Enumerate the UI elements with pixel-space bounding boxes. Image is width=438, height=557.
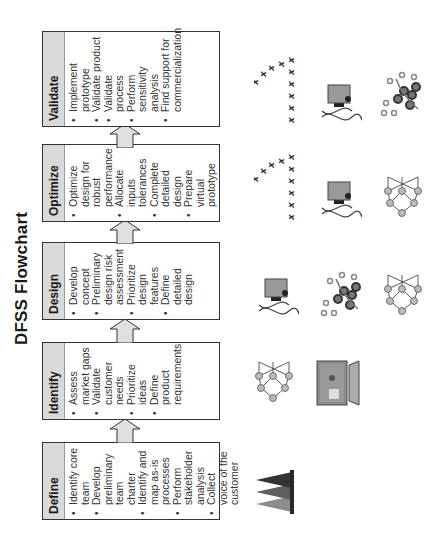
stage-heading: Identify bbox=[43, 343, 65, 419]
molecule-cluster-icon bbox=[378, 71, 424, 119]
stage-item: Validate process bbox=[103, 36, 126, 112]
stage-item: Perform stakeholder analysis bbox=[172, 447, 207, 505]
svg-text:x: x bbox=[286, 165, 296, 173]
stage-item: Optimize design for robust performance bbox=[68, 149, 114, 207]
flow-arrow-icon bbox=[110, 124, 140, 148]
svg-text:x: x bbox=[286, 213, 296, 221]
stage-box-identify: Identify Assess market gaps Validate cus… bbox=[42, 342, 220, 420]
flow-arrow-icon bbox=[110, 319, 140, 343]
svg-text:x: x bbox=[286, 177, 296, 185]
svg-text:x: x bbox=[258, 70, 268, 78]
stage-item: Define detailed design bbox=[160, 247, 195, 305]
stage-box-design: Design Develop concept Preliminary desig… bbox=[42, 242, 220, 320]
stage-item: Develop preliminary team charter bbox=[91, 447, 137, 505]
stage-item: Validate product bbox=[91, 36, 103, 112]
stage-item: Implement prototype bbox=[68, 36, 91, 112]
stage-items: Assess market gaps Validate customer nee… bbox=[68, 343, 183, 419]
stage-item: Validate customer needs bbox=[91, 347, 126, 405]
stage-item: Preliminary design risk assessment bbox=[91, 247, 126, 305]
stage-item: Define product requirements bbox=[149, 347, 184, 405]
network-graph-icon bbox=[382, 173, 424, 217]
stage-item: Prioritize ideas bbox=[126, 347, 149, 405]
svg-text:x: x bbox=[286, 189, 296, 197]
flow-arrow-icon bbox=[110, 419, 140, 443]
svg-text:x: x bbox=[276, 157, 286, 165]
stage-item: Assess market gaps bbox=[68, 347, 91, 405]
stage-item: Identify core team bbox=[68, 447, 91, 505]
svg-text:x: x bbox=[286, 153, 296, 161]
svg-text:x: x bbox=[258, 167, 268, 175]
stage-item: Collect voice of the customer bbox=[206, 447, 241, 505]
stage-items: Identify core team Develop preliminary t… bbox=[68, 443, 241, 519]
stage-items: Optimize design for robust performance A… bbox=[68, 145, 218, 221]
stage-item: Perform sensitivity analysis bbox=[126, 36, 161, 112]
svg-text:x: x bbox=[254, 175, 260, 183]
stage-item: Allocate inputs tolerances bbox=[114, 149, 149, 207]
stage-box-define: Define Identify core team Develop prelim… bbox=[42, 442, 220, 520]
stage-heading: Validate bbox=[43, 32, 65, 126]
svg-text:x: x bbox=[286, 80, 296, 88]
stage-item: Develop concept bbox=[68, 247, 91, 305]
svg-text:x: x bbox=[286, 104, 296, 112]
stage-box-optimize: Optimize Optimize design for robust perf… bbox=[42, 144, 220, 222]
page-title: DFSS Flowchart bbox=[12, 0, 32, 557]
x-marks-pattern-icon: xxx xxx xxxx bbox=[254, 45, 298, 125]
stage-items: Implement prototype Validate product Val… bbox=[68, 32, 183, 126]
flowchart-canvas: DFSS Flowchart Define Identify core team… bbox=[0, 0, 438, 557]
network-graph-icon bbox=[253, 358, 295, 402]
x-marks-pattern-icon: xxx xxx xxxx bbox=[254, 146, 298, 222]
stage-heading: Define bbox=[43, 443, 65, 519]
dna-machine-icon bbox=[318, 176, 362, 222]
computer-monitor-icon bbox=[315, 359, 361, 407]
stage-heading: Design bbox=[43, 243, 65, 319]
stage-items: Develop concept Preliminary design risk … bbox=[68, 243, 195, 319]
svg-text:x: x bbox=[286, 116, 296, 124]
dna-machine-icon bbox=[318, 79, 362, 125]
svg-text:x: x bbox=[276, 60, 286, 68]
stacked-triangles-icon bbox=[252, 470, 294, 514]
stage-item: Identify and map as-is processes bbox=[137, 447, 172, 505]
dna-machine-icon bbox=[255, 273, 299, 319]
stage-heading: Optimize bbox=[43, 145, 65, 221]
svg-text:x: x bbox=[286, 92, 296, 100]
svg-text:x: x bbox=[254, 78, 260, 86]
stage-item: Prepare virtual prototype bbox=[183, 149, 218, 207]
svg-text:x: x bbox=[286, 201, 296, 209]
stage-box-validate: Validate Implement prototype Validate pr… bbox=[42, 31, 220, 127]
svg-text:x: x bbox=[286, 68, 296, 76]
stage-item: Complete detailed design bbox=[149, 149, 184, 207]
svg-text:x: x bbox=[286, 56, 296, 64]
molecule-cluster-icon bbox=[318, 271, 364, 319]
stage-item: Prioritize design features bbox=[126, 247, 161, 305]
network-graph-icon bbox=[382, 271, 424, 315]
flow-arrow-icon bbox=[110, 220, 140, 244]
stage-item: Find support for commercialization bbox=[160, 36, 183, 112]
